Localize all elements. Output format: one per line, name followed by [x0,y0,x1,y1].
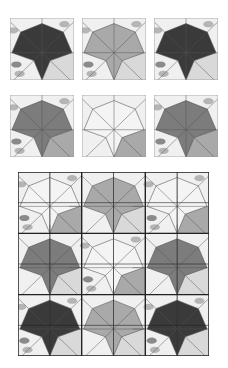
tile-3 [154,18,218,80]
tile-4 [10,95,74,157]
combined-tile-grid [18,172,209,356]
tile-1 [10,18,74,80]
tile-6 [154,95,218,157]
tile-5 [82,95,146,157]
tile-2 [82,18,146,80]
